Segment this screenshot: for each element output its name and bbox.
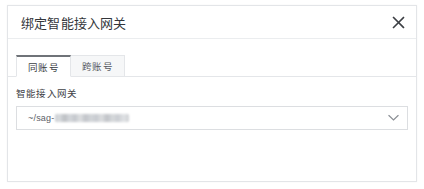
close-button[interactable]: [389, 13, 407, 31]
tab-cross-account[interactable]: 跨账号: [70, 55, 125, 77]
tab-same-account-label: 同账号: [28, 60, 59, 74]
tab-strip: 同账号 跨账号: [8, 55, 416, 77]
chevron-down-icon[interactable]: [388, 113, 399, 124]
select-value-prefix: ~/sag-: [28, 113, 54, 123]
smart-access-gateway-label: 智能接入网关: [16, 87, 408, 100]
dialog-title: 绑定智能接入网关: [21, 13, 127, 32]
tab-cross-account-label: 跨账号: [82, 59, 113, 73]
close-icon: [392, 16, 405, 29]
redacted-gateway-id: [55, 114, 129, 122]
tab-same-account[interactable]: 同账号: [16, 55, 71, 77]
select-selected-value: ~/sag-: [28, 113, 129, 123]
tab-list: 同账号 跨账号: [16, 55, 125, 77]
dialog-body: 同账号 跨账号 智能接入网关 ~/sag-: [8, 55, 416, 130]
form-section: 智能接入网关 ~/sag-: [8, 87, 416, 130]
smart-access-gateway-select[interactable]: ~/sag-: [16, 106, 408, 130]
dialog-header: 绑定智能接入网关: [8, 6, 416, 39]
bind-smart-access-gateway-dialog: 绑定智能接入网关 同账号 跨账号 智能接入网关: [7, 5, 417, 182]
